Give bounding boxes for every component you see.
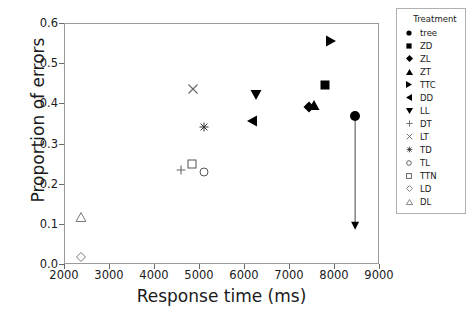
data-point-zt (309, 100, 320, 110)
legend-item-td: TD (400, 143, 462, 156)
legend-item-ttc: TTC (400, 78, 462, 91)
legend-item-zt: ZT (400, 65, 462, 78)
legend-entries: treeZDZLZTTTCDDLLDTLTTDTLTTNLDDL (400, 26, 462, 208)
data-point-lt (188, 84, 199, 95)
legend-item-ll: LL (400, 104, 462, 117)
cross-icon (400, 130, 418, 143)
data-point-ttn (188, 159, 197, 168)
legend-item-label: TL (418, 158, 430, 168)
y-tick-mark (59, 103, 64, 104)
y-tick-label: 0.3 (26, 137, 58, 151)
y-tick-mark (59, 23, 64, 24)
triangle-left-filled-icon (400, 91, 418, 104)
y-tick-mark (59, 144, 64, 145)
circle-open-icon (400, 156, 418, 169)
triangle-right-filled-icon (400, 78, 418, 91)
plus-icon (400, 117, 418, 130)
x-axis-label: Response time (ms) (64, 286, 379, 306)
data-point-ld (76, 252, 86, 262)
legend-title: Treatment (400, 14, 462, 24)
legend-item-label: ZD (418, 41, 432, 51)
square-open-icon (400, 169, 418, 182)
legend-item-dl: DL (400, 195, 462, 208)
legend-item-ld: LD (400, 182, 462, 195)
data-point-ttc (326, 36, 336, 47)
square-filled-icon (400, 39, 418, 52)
legend-item-label: ZT (418, 67, 431, 77)
legend-item-label: tree (418, 28, 437, 38)
x-tick-label: 9000 (349, 268, 409, 282)
diamond-open-icon (400, 182, 418, 195)
legend: Treatment treeZDZLZTTTCDDLLDTLTTDTLTTNLD… (396, 8, 466, 214)
plot-area (64, 23, 379, 264)
legend-item-dd: DD (400, 91, 462, 104)
legend-item-label: DT (418, 119, 432, 129)
legend-item-label: DL (418, 197, 431, 207)
y-tick-mark (59, 184, 64, 185)
x-tick-mark (244, 264, 245, 269)
y-tick-label: 0.2 (26, 177, 58, 191)
y-tick-label: 0.6 (26, 16, 58, 30)
chart-screenshot: Proportion of errors 0.00.10.20.30.40.50… (0, 0, 473, 320)
legend-item-label: TD (418, 145, 432, 155)
x-tick-mark (379, 264, 380, 269)
diamond-filled-icon (400, 52, 418, 65)
x-tick-mark (334, 264, 335, 269)
triangle-down-filled-icon (400, 104, 418, 117)
data-point-dd (247, 115, 257, 126)
data-point-tree (350, 111, 361, 122)
data-point-dl (76, 212, 87, 222)
y-tick-mark (59, 63, 64, 64)
legend-item-lt: LT (400, 130, 462, 143)
circle-filled-icon (400, 26, 418, 39)
y-tick-label: 0.5 (26, 56, 58, 70)
legend-item-label: DD (418, 93, 433, 103)
error-bar-arrow-annotation (64, 23, 379, 264)
legend-item-label: TTC (418, 80, 436, 90)
y-tick-mark (59, 224, 64, 225)
x-tick-mark (154, 264, 155, 269)
data-point-zd (320, 80, 330, 90)
legend-item-dt: DT (400, 117, 462, 130)
legend-item-ttn: TTN (400, 169, 462, 182)
data-point-dt (176, 165, 186, 175)
legend-item-tl: TL (400, 156, 462, 169)
legend-item-label: LT (418, 132, 429, 142)
legend-item-label: ZL (418, 54, 431, 64)
x-tick-mark (64, 264, 65, 269)
data-point-td (199, 122, 209, 132)
y-tick-label: 0.4 (26, 96, 58, 110)
legend-item-zl: ZL (400, 52, 462, 65)
y-tick-label: 0.1 (26, 217, 58, 231)
legend-item-label: TTN (418, 171, 437, 181)
triangle-up-open-icon (400, 195, 418, 208)
legend-item-label: LD (418, 184, 431, 194)
asterisk-icon (400, 143, 418, 156)
x-tick-mark (109, 264, 110, 269)
legend-item-tree: tree (400, 26, 462, 39)
data-point-tl (199, 167, 209, 177)
x-tick-mark (289, 264, 290, 269)
x-tick-mark (199, 264, 200, 269)
legend-item-label: LL (418, 106, 429, 116)
data-point-ll (250, 90, 261, 100)
legend-item-zd: ZD (400, 39, 462, 52)
triangle-up-filled-icon (400, 65, 418, 78)
